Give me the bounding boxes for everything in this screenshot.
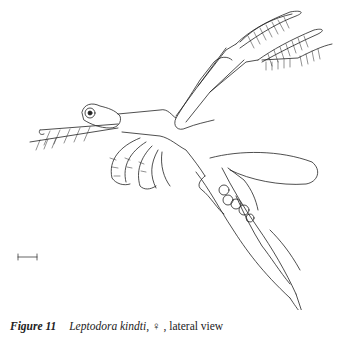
abdomen xyxy=(196,168,302,310)
trunk xyxy=(118,57,232,214)
scale-bar xyxy=(18,254,37,260)
view-description: lateral view xyxy=(169,320,223,332)
species-name: Leptodora kindti xyxy=(69,320,146,332)
specimen-illustration xyxy=(0,0,352,310)
second-antennae xyxy=(176,11,332,122)
figure-caption: Figure 11 Leptodora kindti, ♀ , lateral … xyxy=(10,320,223,332)
sex-symbol: , ♀ , xyxy=(146,320,169,332)
figure-label: Figure 11 xyxy=(10,320,56,332)
brood-pouch xyxy=(210,152,318,210)
thoracic-legs xyxy=(30,124,170,189)
